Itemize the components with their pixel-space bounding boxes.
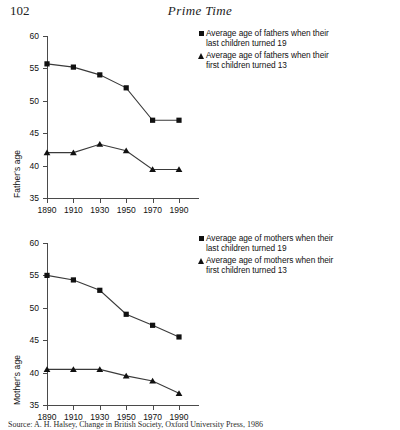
data-point-square	[71, 277, 76, 282]
running-head: Prime Time	[0, 3, 400, 19]
data-point-square	[97, 288, 102, 293]
legend-label: Average age of mothers when their first …	[206, 255, 333, 276]
marker-glyph	[198, 258, 204, 264]
series-first-children	[44, 366, 183, 396]
chart-fathers: Father's age3540455055601890191019301950…	[0, 26, 400, 222]
data-point-triangle	[96, 141, 103, 147]
legend-item: Average age of fathers when their first …	[196, 50, 329, 71]
data-point-square	[97, 72, 102, 77]
legend-label: Average age of fathers when their first …	[206, 50, 329, 71]
triangle-marker-icon	[196, 50, 206, 59]
legend-label: Average age of fathers when their last c…	[206, 28, 329, 49]
chart-mothers: Mother's age3540455055601890191019301950…	[0, 233, 400, 423]
data-point-square	[150, 323, 155, 328]
data-point-square	[71, 65, 76, 70]
series-line	[47, 369, 179, 393]
legend-item: Average age of mothers when their first …	[196, 255, 333, 276]
legend-item: Average age of mothers when their last c…	[196, 233, 333, 254]
page-header: 102 Prime Time	[0, 0, 400, 24]
data-point-square	[44, 273, 49, 278]
marker-glyph	[199, 31, 204, 36]
data-point-square	[124, 85, 129, 90]
data-point-triangle	[176, 390, 183, 396]
triangle-marker-icon	[196, 255, 206, 264]
series-line	[47, 144, 179, 169]
data-point-square	[44, 61, 49, 66]
legend-fathers: Average age of fathers when their last c…	[196, 28, 329, 72]
series-last-children	[44, 61, 181, 123]
legend-item: Average age of fathers when their last c…	[196, 28, 329, 49]
legend-mothers: Average age of mothers when their last c…	[196, 233, 333, 277]
data-point-square	[124, 312, 129, 317]
square-marker-icon	[196, 233, 206, 241]
series-line	[47, 275, 179, 337]
series-last-children	[44, 273, 181, 340]
series-line	[47, 64, 179, 120]
data-point-square	[176, 118, 181, 123]
legend-label: Average age of mothers when their last c…	[206, 233, 333, 254]
marker-glyph	[198, 53, 204, 59]
data-point-square	[150, 118, 155, 123]
marker-glyph	[199, 236, 204, 241]
data-point-square	[176, 334, 181, 339]
source-note: Source: A. H. Halsey, Change in British …	[8, 420, 400, 429]
series-first-children	[44, 141, 183, 172]
square-marker-icon	[196, 28, 206, 36]
